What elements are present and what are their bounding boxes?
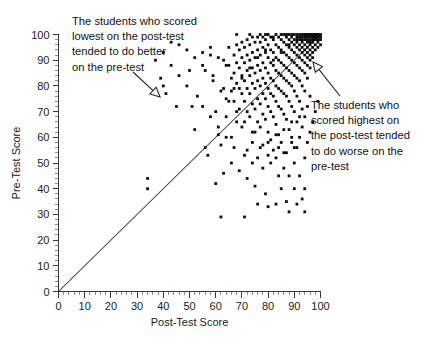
data-point (248, 43, 251, 46)
data-point (298, 36, 301, 39)
data-point (264, 82, 267, 85)
data-point (272, 64, 275, 67)
annotation-line: lowest on the post-test (72, 30, 185, 42)
scatter-plot-figure: 0102030405060708090100 01020304050607080… (0, 0, 422, 344)
chart-canvas: 0102030405060708090100 01020304050607080… (0, 0, 422, 344)
data-point (267, 87, 270, 90)
data-point (269, 110, 272, 113)
data-point (316, 38, 319, 41)
annotation-line: The students who scored (72, 15, 197, 27)
data-point (272, 51, 275, 54)
data-point (267, 154, 270, 157)
data-point (285, 151, 288, 154)
annotation-line: The students who (311, 99, 399, 111)
data-point (296, 46, 299, 49)
data-point (306, 38, 309, 41)
data-point (264, 97, 267, 100)
data-point (238, 67, 241, 70)
data-point (267, 33, 270, 36)
data-point (191, 105, 194, 108)
data-point (319, 38, 322, 41)
data-point (230, 136, 233, 139)
data-point (275, 100, 278, 103)
data-point (306, 41, 309, 44)
data-point (309, 67, 312, 70)
data-point (280, 90, 283, 93)
data-point (301, 126, 304, 129)
data-point (288, 174, 291, 177)
data-point (282, 51, 285, 54)
data-point (290, 105, 293, 108)
data-point (296, 41, 299, 44)
data-point (193, 128, 196, 131)
y-tick-label: 60 (37, 131, 49, 143)
data-point (290, 85, 293, 88)
data-point (293, 162, 296, 165)
data-point (243, 61, 246, 64)
data-point (296, 120, 299, 123)
data-point (238, 108, 241, 111)
data-point (311, 46, 314, 49)
data-point (259, 85, 262, 88)
x-tick-label: 50 (183, 300, 195, 312)
data-point (201, 105, 204, 108)
y-tick-label: 100 (31, 29, 49, 41)
data-point (280, 49, 283, 52)
x-tick-label: 60 (210, 300, 222, 312)
data-point (170, 64, 173, 67)
x-tick-label: 0 (55, 300, 61, 312)
data-point (290, 59, 293, 62)
data-point (220, 216, 223, 219)
data-point (222, 172, 225, 175)
data-point (264, 118, 267, 121)
data-point (238, 87, 241, 90)
data-point (290, 136, 293, 139)
data-point (248, 74, 251, 77)
data-point (251, 67, 254, 70)
data-point (261, 167, 264, 170)
data-point (293, 90, 296, 93)
data-point (280, 141, 283, 144)
data-point (280, 187, 283, 190)
data-point (282, 92, 285, 95)
data-point (269, 36, 272, 39)
data-point (288, 128, 291, 131)
data-point (301, 36, 304, 39)
data-point (309, 54, 312, 57)
data-point (275, 69, 278, 72)
data-point (201, 64, 204, 67)
data-point (316, 41, 319, 44)
data-point (296, 33, 299, 36)
data-point (254, 108, 257, 111)
data-point (254, 72, 257, 75)
data-point (306, 77, 309, 80)
data-point (248, 59, 251, 62)
data-point (277, 133, 280, 136)
data-point (248, 115, 251, 118)
data-point (251, 51, 254, 54)
data-point (311, 41, 314, 44)
annotation-line: on the pre-test (72, 61, 145, 73)
data-point (225, 97, 228, 100)
data-point (301, 41, 304, 44)
data-point (301, 108, 304, 111)
data-point (306, 36, 309, 39)
data-point (233, 72, 236, 75)
data-point (241, 77, 244, 80)
data-point (254, 56, 257, 59)
data-point (267, 72, 270, 75)
y-tick-label: 50 (37, 157, 49, 169)
data-point (256, 79, 259, 82)
data-point (275, 123, 278, 126)
data-point (306, 56, 309, 59)
data-point (298, 115, 301, 118)
data-point (243, 120, 246, 123)
data-point (259, 33, 262, 36)
data-point (238, 49, 241, 52)
data-point (246, 69, 249, 72)
data-point (293, 187, 296, 190)
data-point (290, 141, 293, 144)
data-point (154, 59, 157, 62)
data-point (275, 203, 278, 206)
data-point (225, 136, 228, 139)
